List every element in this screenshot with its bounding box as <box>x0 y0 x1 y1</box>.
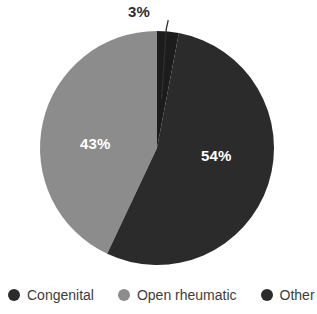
pie-label-open-rheumatic: 43% <box>80 136 111 151</box>
legend-item-congenital[interactable]: Congenital <box>8 284 94 306</box>
legend-label-congenital: Congenital <box>27 288 94 302</box>
pie-label-other: 3% <box>128 4 150 19</box>
legend-item-open-rheumatic[interactable]: Open rheumatic <box>118 284 237 306</box>
chart-legend: Congenital Open rheumatic Other <box>0 283 317 307</box>
legend-label-other: Other <box>280 288 315 302</box>
pie-chart: 3% 54% 43% Congenital Open rheumatic Oth… <box>0 0 317 314</box>
legend-color-dot-congenital <box>8 289 20 301</box>
legend-color-dot-other <box>261 289 273 301</box>
pie-chart-canvas <box>0 0 317 314</box>
legend-color-dot-open-rheumatic <box>118 289 130 301</box>
pie-label-congenital: 54% <box>201 148 232 163</box>
legend-item-other[interactable]: Other <box>261 284 315 306</box>
legend-label-open-rheumatic: Open rheumatic <box>137 288 237 302</box>
